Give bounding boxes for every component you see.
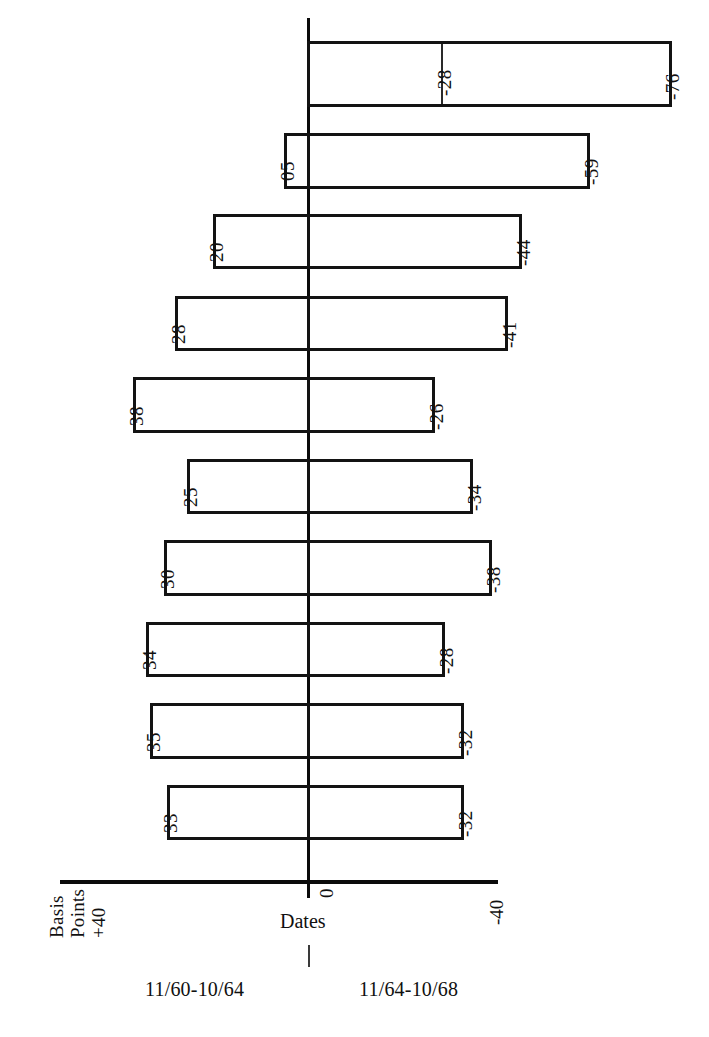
bar-positive-label: 33 [161,813,180,833]
bar-positive [175,296,310,351]
bar-positive [133,377,310,433]
bar-positive [187,459,310,514]
bar-negative-label: -34 [465,484,484,511]
bar-negative-label: -28 [437,647,456,674]
y-axis-title-line1: Basis [46,889,67,938]
bar-negative-label: -32 [456,729,475,756]
plot-area: -28 -76 05 -59 20 -44 28 -41 38 [0,0,709,880]
bar-negative [307,296,508,351]
bar-positive-label: 28 [169,324,188,344]
bar-negative [307,41,672,107]
bar-positive-label: 25 [181,487,200,507]
bar-negative [307,459,473,514]
y-axis-title-line3: +40 [88,889,109,938]
bar-divider-label: -28 [435,69,454,96]
value-axis-line [60,880,498,884]
bar-positive [150,703,310,759]
bar-negative-label: -41 [500,321,519,348]
bar-negative-label: -32 [456,810,475,837]
bar-negative [307,703,464,759]
bar-positive [146,622,310,677]
bar-negative-label: -76 [663,73,682,100]
bar-negative [307,540,492,596]
bar-negative [307,133,590,189]
period-label-left: 11/60-10/64 [145,978,244,1001]
bar-negative [307,214,522,269]
bar-positive-label: 30 [158,569,177,589]
bar-positive-label: 35 [144,732,163,752]
bar-chart-figure: -28 -76 05 -59 20 -44 28 -41 38 [0,0,709,1037]
bar-negative-label: -59 [582,158,601,185]
bar-negative [307,785,464,840]
bar-negative [307,622,445,677]
bar-positive-label: 20 [207,242,226,262]
axis-tick-neg40: -40 [486,900,508,925]
bar-negative-label: -26 [427,403,446,430]
bar-negative [307,377,435,433]
period-label-right: 11/64-10/68 [359,978,458,1001]
bar-negative-label: -38 [484,566,503,593]
x-axis-title: Dates [280,910,326,933]
bar-positive-label: 38 [127,406,146,426]
bar-positive-label: 05 [278,161,297,181]
bar-positive [213,214,310,269]
bar-negative-label: -44 [514,239,533,266]
bar-positive [167,785,310,840]
y-axis-title-line2: Points [67,889,88,938]
axis-tick-zero: 0 [316,889,338,899]
y-axis-title: Basis Points +40 [46,889,109,938]
bar-positive-label: 34 [140,650,159,670]
bar-positive [164,540,310,596]
x-axis-tick-mark [308,945,310,967]
